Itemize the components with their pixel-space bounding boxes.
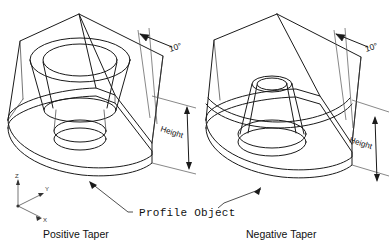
figure-canvas: 10° Height xyxy=(0,0,391,252)
neg-hole-bottom xyxy=(238,128,306,156)
axis-x-line xyxy=(18,206,40,217)
neg-height-ext-lower xyxy=(352,165,389,176)
axis-y-label: Y xyxy=(45,186,49,192)
pos-height-arrow-up xyxy=(184,106,190,114)
neg-cone-left-outer xyxy=(240,84,252,134)
neg-base-bottom-outline xyxy=(206,97,352,178)
pos-height-dimension: Height xyxy=(152,96,196,174)
positive-taper-solid xyxy=(8,14,163,176)
pos-height-label: Height xyxy=(159,124,185,140)
callout-label: Profile Object xyxy=(139,207,236,219)
axis-z-label: Z xyxy=(15,173,19,179)
caption-negative-taper: Negative Taper xyxy=(246,228,317,240)
neg-height-arrow-up xyxy=(372,116,378,124)
neg-angle-vertical-ref xyxy=(345,28,353,128)
pos-block-ridge xyxy=(79,14,115,95)
callout-left-leader xyxy=(91,183,133,212)
pos-angle-label: 10° xyxy=(168,41,183,54)
pos-block-left-lower xyxy=(20,41,23,99)
callout-left-arrowhead xyxy=(89,181,97,189)
pos-height-ext-upper xyxy=(152,96,196,108)
pos-block-upper-faces xyxy=(79,14,163,143)
pos-angle-arrowhead xyxy=(140,34,149,41)
negative-taper-solid xyxy=(206,14,361,178)
neg-top-rim-arc xyxy=(206,104,352,128)
axis-triad: Z Y X xyxy=(15,173,49,223)
profile-object-callout: Profile Object xyxy=(89,181,261,219)
pos-angle-vertical-ref xyxy=(149,28,157,124)
neg-base-top-outline xyxy=(206,89,352,170)
pos-cyl-wall-left-inner xyxy=(43,62,53,108)
pos-cyl-wall-left-outer xyxy=(30,60,44,110)
neg-height-ext-upper xyxy=(352,100,389,112)
neg-cone-right-inner xyxy=(287,85,296,133)
neg-block-right-wall xyxy=(277,14,361,144)
pos-cylinder-top-inner xyxy=(43,44,117,76)
axis-y-arrowhead xyxy=(38,193,44,197)
neg-angle-arrowhead xyxy=(336,34,345,41)
axis-z-arrowhead xyxy=(16,179,20,185)
neg-hole-top xyxy=(238,120,306,148)
pos-base-bottom-outline xyxy=(8,96,152,176)
neg-block-left-crease xyxy=(214,40,220,100)
neg-height-arrow-down xyxy=(374,174,380,182)
pos-cylinder-mid-ring xyxy=(44,98,116,122)
pos-height-dim-line xyxy=(187,108,189,168)
pos-angle-taper-ref xyxy=(138,30,150,118)
pos-cyl-wall-right-outer xyxy=(116,60,130,110)
neg-angle-label: 10° xyxy=(364,41,379,54)
neg-height-dim-line xyxy=(375,118,377,180)
neg-cylinder-top-inner xyxy=(257,78,287,90)
axis-x-label: X xyxy=(43,217,47,223)
technical-illustration: 10° Height xyxy=(0,0,391,252)
neg-top-rim-arc-inner xyxy=(208,98,350,122)
axis-y-line xyxy=(18,194,42,206)
pos-cyl-wall-right-inner xyxy=(107,62,117,108)
pos-cylinder-top-outer xyxy=(30,38,130,82)
pos-height-arrow-down xyxy=(186,162,192,170)
neg-block-ridge xyxy=(277,14,320,96)
neg-height-dimension: Height xyxy=(348,100,389,182)
caption-positive-taper: Positive Taper xyxy=(43,228,109,240)
